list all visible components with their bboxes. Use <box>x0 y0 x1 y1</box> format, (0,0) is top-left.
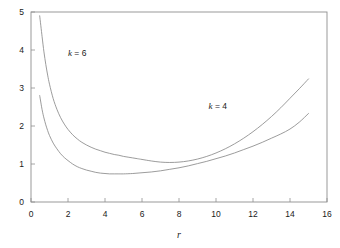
series-line-k6 <box>40 16 309 163</box>
line-chart: 0246810121416 012345 k = 6 k = 4 r <box>0 0 340 248</box>
curve-label-k6: k = 6 <box>68 48 87 58</box>
y-tick-label: 0 <box>19 197 24 207</box>
plot-frame <box>31 12 327 202</box>
y-tick-label: 2 <box>19 121 24 131</box>
y-tick-label: 4 <box>19 45 24 55</box>
x-axis-title: r <box>177 229 181 240</box>
y-tick-label: 5 <box>19 7 24 17</box>
chart-container: 0246810121416 012345 k = 6 k = 4 r <box>0 0 340 248</box>
y-tick-label: 1 <box>19 159 24 169</box>
y-tick-label: 3 <box>19 83 24 93</box>
x-tick-label: 16 <box>322 209 332 219</box>
y-axis-tick-labels: 012345 <box>19 7 24 207</box>
x-tick-label: 2 <box>66 209 71 219</box>
x-tick-label: 0 <box>29 209 34 219</box>
x-tick-label: 14 <box>285 209 295 219</box>
y-axis-ticks <box>31 12 35 202</box>
x-tick-label: 4 <box>103 209 108 219</box>
x-tick-label: 12 <box>248 209 258 219</box>
curve-label-k4: k = 4 <box>209 101 228 111</box>
x-tick-label: 10 <box>211 209 221 219</box>
x-axis-ticks <box>31 198 327 202</box>
x-tick-label: 6 <box>140 209 145 219</box>
x-tick-label: 8 <box>177 209 182 219</box>
x-axis-tick-labels: 0246810121416 <box>29 209 332 219</box>
